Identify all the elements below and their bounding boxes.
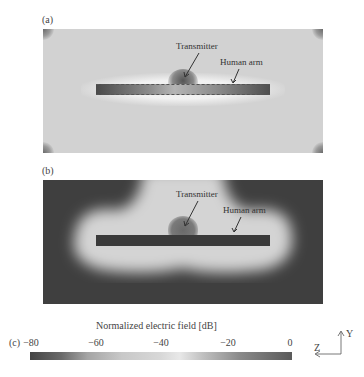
colorbar-tick: −60	[88, 337, 104, 348]
colorbar-tick: −20	[220, 337, 236, 348]
axis-y-label: Y	[346, 328, 353, 339]
arrow-icon	[43, 180, 323, 304]
arrow-icon	[43, 29, 323, 153]
panel-c-label: (c)	[9, 337, 20, 348]
panel-a-label: (a)	[42, 14, 53, 25]
panel-a-field-map: Transmitter Human arm	[43, 29, 323, 153]
colorbar-tick: 0	[288, 337, 293, 348]
panel-b-field-map: Transmitter Human arm	[43, 180, 323, 304]
colorbar-title: Normalized electric field [dB]	[96, 320, 217, 331]
colorbar-tick: −80	[23, 337, 39, 348]
colorbar	[30, 352, 292, 360]
panel-b-label: (b)	[42, 165, 54, 176]
axis-z-label: Z	[314, 342, 320, 353]
colorbar-tick: −40	[153, 337, 169, 348]
